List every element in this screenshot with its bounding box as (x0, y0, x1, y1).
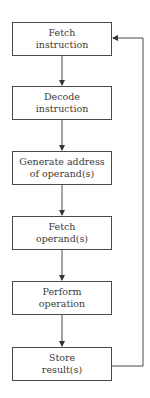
step-label-line1: Fetch (49, 27, 76, 39)
step-label-line2: operation (39, 298, 85, 310)
step-generate-address: Generate address of operand(s) (12, 151, 112, 185)
step-label-line1: Generate address (19, 156, 104, 168)
step-label-line2: instruction (36, 103, 89, 115)
step-label-line2: of operand(s) (30, 168, 94, 180)
step-label-line2: result(s) (42, 364, 82, 376)
step-store-results: Store result(s) (12, 347, 112, 381)
step-fetch-operands: Fetch operand(s) (12, 216, 112, 250)
step-label-line1: Fetch (49, 221, 76, 233)
connector-lines (0, 0, 150, 398)
step-label-line1: Perform (43, 286, 82, 298)
step-label-line1: Store (49, 352, 75, 364)
step-label-line1: Decode (44, 91, 80, 103)
step-fetch-instruction: Fetch instruction (12, 22, 112, 56)
step-label-line2: operand(s) (36, 233, 88, 245)
step-perform-operation: Perform operation (12, 281, 112, 315)
step-label-line2: instruction (36, 39, 89, 51)
step-decode-instruction: Decode instruction (12, 86, 112, 120)
